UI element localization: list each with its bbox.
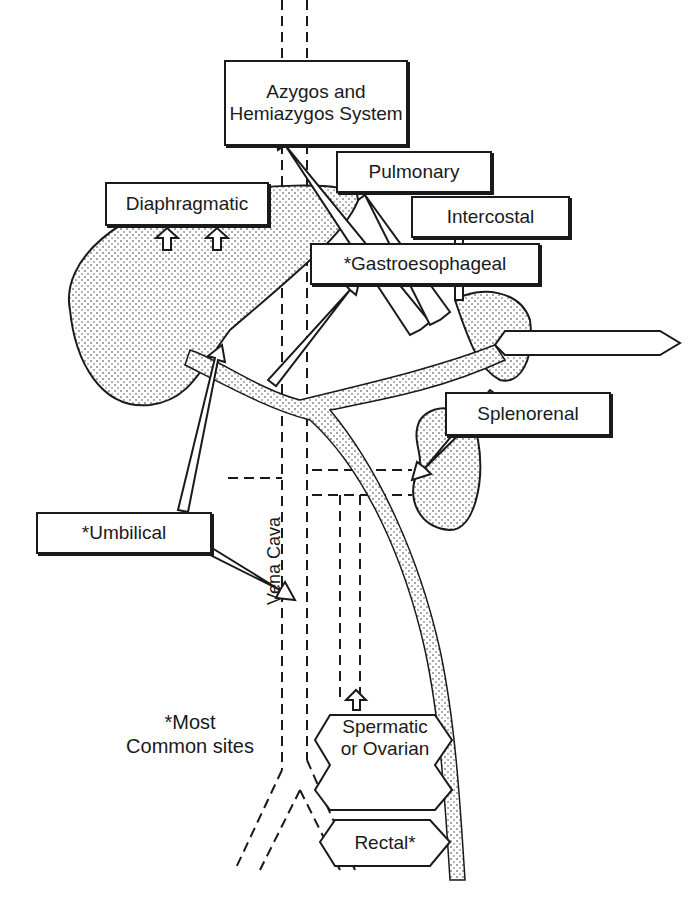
azygos-box: Azygos and Hemiazygos System: [224, 60, 408, 146]
vena-cava-label: Vena Cava: [264, 517, 285, 605]
rectal-label: Rectal*: [340, 832, 430, 854]
azygos-label: Azygos and Hemiazygos System: [226, 81, 406, 125]
footnote-line2: Common sites: [100, 734, 280, 758]
arrow-right-outflow: [495, 331, 680, 355]
spermatic-ovarian-label: Spermatic or Ovarian: [340, 716, 430, 760]
diaphragmatic-label: Diaphragmatic: [126, 193, 249, 215]
gastroesophageal-box: *Gastroesophageal: [310, 243, 540, 285]
gastroesophageal-label: *Gastroesophageal: [344, 253, 507, 275]
splenorenal-box: Splenorenal: [445, 392, 611, 436]
splenorenal-label: Splenorenal: [477, 403, 578, 425]
intercostal-label: Intercostal: [447, 206, 535, 228]
pulmonary-label: Pulmonary: [369, 161, 460, 183]
footnote: *Most Common sites: [100, 710, 280, 758]
footnote-line1: *Most: [100, 710, 280, 734]
arrow-to-spermatic: [346, 690, 366, 710]
diaphragmatic-box: Diaphragmatic: [105, 182, 269, 226]
umbilical-box: *Umbilical: [36, 512, 212, 554]
intercostal-box: Intercostal: [411, 196, 570, 238]
umbilical-label: *Umbilical: [82, 522, 166, 544]
pulmonary-box: Pulmonary: [336, 151, 492, 193]
